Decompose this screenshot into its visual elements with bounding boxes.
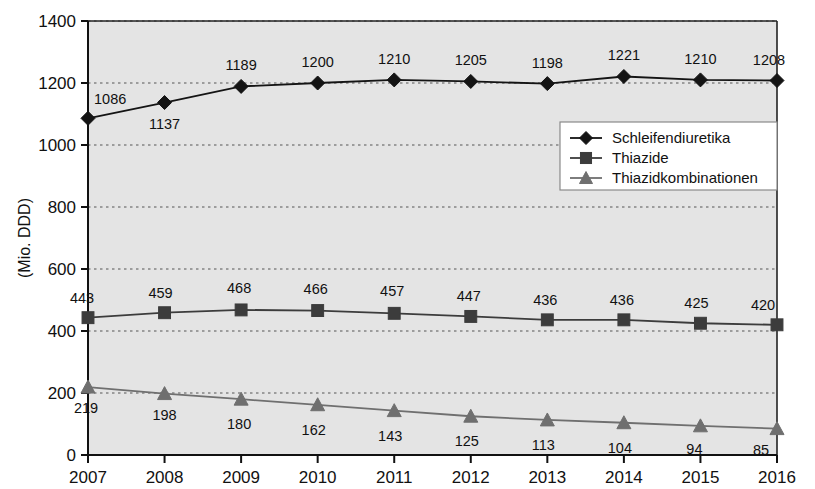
data-label-thiazide-2015: 425 xyxy=(684,295,708,311)
data-label-thiazide-2013: 436 xyxy=(533,292,557,308)
data-label-schleifendiuretika-2013: 1198 xyxy=(532,55,563,71)
data-label-thiazidkombinationen-2010: 162 xyxy=(302,422,326,438)
y-tick-label-200: 200 xyxy=(48,384,76,403)
x-tick-label-2008: 2008 xyxy=(146,468,184,487)
data-label-schleifendiuretika-2010: 1200 xyxy=(302,54,334,70)
x-tick-label-2012: 2012 xyxy=(452,468,490,487)
data-label-thiazidkombinationen-2016: 85 xyxy=(753,442,769,458)
data-label-thiazide-2014: 436 xyxy=(610,292,634,308)
data-label-thiazidkombinationen-2013: 113 xyxy=(532,437,555,453)
x-tick-label-2007: 2007 xyxy=(69,468,107,487)
data-label-thiazide-2011: 457 xyxy=(380,283,404,299)
marker-square xyxy=(541,314,553,326)
data-label-thiazide-2009: 468 xyxy=(227,280,251,296)
data-label-thiazidkombinationen-2015: 94 xyxy=(686,441,702,457)
marker-square xyxy=(771,319,783,331)
legend-label-thiazide: Thiazide xyxy=(612,149,669,166)
data-label-thiazidkombinationen-2007: 219 xyxy=(74,400,98,416)
y-axis-title: (Mio. DDD) xyxy=(16,198,33,278)
marker-square xyxy=(312,305,324,317)
y-tick-label-1400: 1400 xyxy=(38,12,76,31)
data-label-schleifendiuretika-2016: 1208 xyxy=(753,52,785,68)
chart-container: 0200400600800100012001400200720082009201… xyxy=(0,0,815,489)
x-tick-label-2013: 2013 xyxy=(528,468,566,487)
y-tick-label-400: 400 xyxy=(48,322,76,341)
data-label-thiazidkombinationen-2014: 104 xyxy=(608,440,632,456)
marker-square xyxy=(82,312,94,324)
x-tick-label-2014: 2014 xyxy=(605,468,643,487)
x-tick-label-2011: 2011 xyxy=(376,468,413,487)
data-label-schleifendiuretika-2014: 1221 xyxy=(608,47,640,63)
legend-label-schleifendiuretika: Schleifendiuretika xyxy=(612,129,731,146)
y-tick-label-1200: 1200 xyxy=(38,74,76,93)
plot-area-background xyxy=(88,21,777,455)
x-tick-label-2010: 2010 xyxy=(299,468,337,487)
data-label-thiazide-2008: 459 xyxy=(148,285,172,301)
data-label-schleifendiuretika-2015: 1210 xyxy=(684,51,716,67)
y-tick-label-0: 0 xyxy=(67,446,76,465)
data-label-thiazidkombinationen-2009: 180 xyxy=(227,416,251,432)
data-label-schleifendiuretika-2012: 1205 xyxy=(455,52,487,68)
legend: SchleifendiuretikaThiazideThiazidkombina… xyxy=(560,122,777,190)
data-label-schleifendiuretika-2011: 1210 xyxy=(378,51,410,67)
x-tick-label-2015: 2015 xyxy=(682,468,720,487)
marker-square xyxy=(388,307,400,319)
y-tick-label-1000: 1000 xyxy=(38,136,76,155)
data-label-schleifendiuretika-2007: 1086 xyxy=(94,91,126,107)
x-tick-label-2016: 2016 xyxy=(758,468,796,487)
marker-square xyxy=(618,314,630,326)
x-tick-label-2009: 2009 xyxy=(222,468,260,487)
data-label-thiazide-2010: 466 xyxy=(304,281,328,297)
data-label-thiazidkombinationen-2012: 125 xyxy=(455,433,479,449)
data-label-schleifendiuretika-2009: 1189 xyxy=(226,57,257,73)
data-label-thiazide-2016: 420 xyxy=(751,297,775,313)
data-label-thiazidkombinationen-2011: 143 xyxy=(378,428,402,444)
y-tick-label-800: 800 xyxy=(48,198,76,217)
data-label-thiazidkombinationen-2008: 198 xyxy=(152,407,176,423)
marker-square xyxy=(580,152,591,163)
marker-square xyxy=(694,317,706,329)
y-tick-label-600: 600 xyxy=(48,260,76,279)
data-label-schleifendiuretika-2008: 1137 xyxy=(149,116,180,132)
data-label-thiazide-2007: 443 xyxy=(70,290,94,306)
marker-square xyxy=(159,307,171,319)
marker-square xyxy=(465,310,477,322)
marker-square xyxy=(235,304,247,316)
legend-label-thiazidkombinationen: Thiazidkombinationen xyxy=(612,169,758,186)
line-chart: 0200400600800100012001400200720082009201… xyxy=(0,0,815,489)
data-label-thiazide-2012: 447 xyxy=(457,288,481,304)
